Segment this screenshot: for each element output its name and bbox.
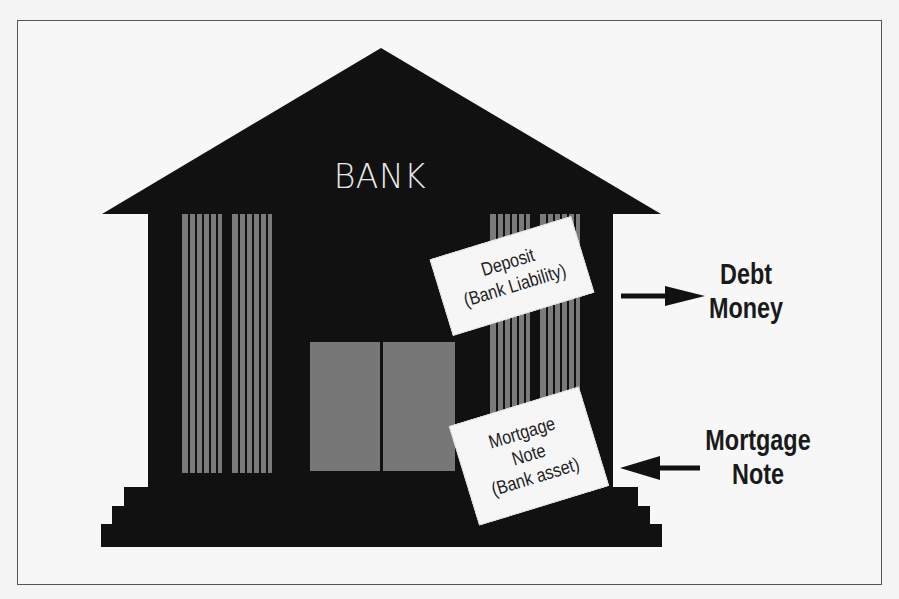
debt-money-line1: Debt xyxy=(699,257,793,291)
bank-label: BANK xyxy=(330,157,430,196)
mortgage-note-label: Mortgage Note xyxy=(678,423,838,491)
mortgage-note-line1: Mortgage xyxy=(696,423,821,457)
door-right xyxy=(383,342,455,471)
debt-money-label: Debt Money xyxy=(686,257,806,325)
door-left xyxy=(310,342,380,471)
debt-money-line2: Money xyxy=(699,291,793,325)
mortgage-note-line2: Note xyxy=(696,457,821,491)
